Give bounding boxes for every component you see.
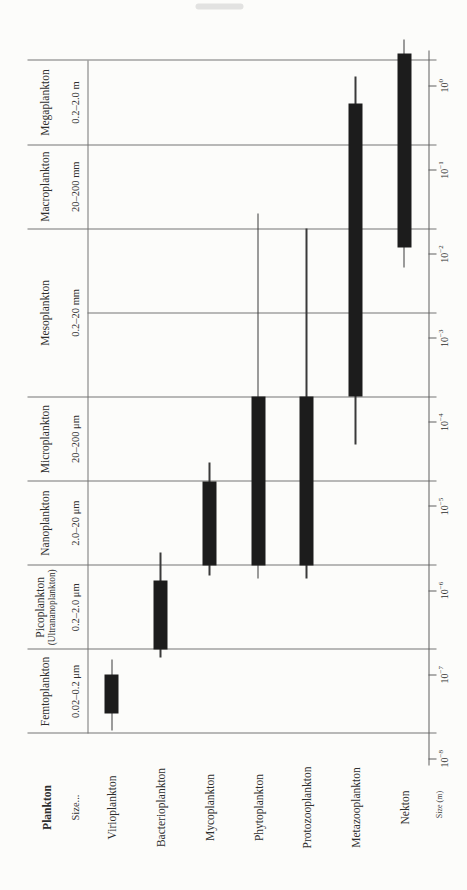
range-bar (348, 103, 362, 397)
organism-label: Protozooplankton (298, 742, 314, 872)
axis-tick-label: 10−2 (437, 234, 449, 274)
size-class-cell: Mesoplankton0.2–20 mm (28, 228, 86, 396)
organism-label: Metazooplankton (347, 742, 363, 872)
axis-tick-label: 10−6 (437, 570, 449, 610)
plot-area: Plankton Size... Size (m) Femtoplankton0… (0, 0, 467, 890)
size-header-label: Size... (67, 742, 83, 872)
size-class-range: 0.02–0.2 μm (62, 649, 86, 733)
size-class-name: Microplankton (38, 404, 51, 472)
organism-label: Bacterioplankton (152, 742, 168, 872)
axis-tick-label: 10−7 (437, 654, 449, 694)
size-class-cell: Picoplankton(Ultrananoplankton)0.2–2.0 μ… (28, 565, 86, 649)
axis-tick (428, 421, 436, 422)
range-bar (202, 481, 216, 565)
size-class-cell: Macroplankton20–200 mm (28, 144, 86, 228)
range-bar (153, 581, 167, 649)
axis-tick-exponent: −3 (436, 329, 444, 336)
class-boundary-line (27, 396, 436, 397)
organism-label: Nekton (396, 742, 412, 872)
size-class-name: Macroplankton (38, 151, 51, 221)
size-class-namebox: Macroplankton (28, 144, 62, 228)
axis-tick-exponent: −1 (436, 161, 444, 168)
figure: Plankton Size... Size (m) Femtoplankton0… (0, 0, 467, 890)
axis-tick (428, 85, 436, 86)
axis-tick (428, 337, 436, 338)
axis-tick-label: 10−4 (437, 402, 449, 442)
page: { "colors": { "bar": "#1c1c1c", "grid_li… (0, 0, 467, 890)
size-class-cell: Femtoplankton0.02–0.2 μm (28, 649, 86, 733)
size-class-cell: Microplankton20–200 μm (28, 397, 86, 481)
axis-tick-exponent: −5 (436, 497, 444, 504)
size-class-namebox: Microplankton (28, 397, 62, 481)
axis-tick (428, 505, 436, 506)
size-class-namebox: Femtoplankton (28, 649, 62, 733)
class-boundary-line (27, 228, 436, 229)
axis-tick (428, 590, 436, 591)
plankton-header-label: Plankton (38, 742, 54, 872)
range-bar (104, 674, 118, 712)
size-class-cell: Megaplankton0.2–2.0 m (28, 60, 86, 144)
size-class-name: Megaplankton (38, 69, 51, 135)
size-class-subname: (Ultrananoplankton) (46, 569, 57, 645)
class-boundary-line (27, 60, 436, 61)
organism-label: Virioplankton (103, 742, 119, 872)
scan-artifact (195, 3, 243, 9)
organism-label: Phytoplankton (250, 742, 266, 872)
axis-tick-exponent: −7 (436, 665, 444, 672)
size-class-name: Picoplankton (33, 576, 46, 637)
inner-gridline (87, 312, 436, 313)
range-bar (397, 53, 411, 247)
axis-tick (428, 674, 436, 675)
class-boundary-line (27, 648, 436, 649)
organism-label: Mycoplankton (201, 742, 217, 872)
axis-title: Size (m) (434, 776, 443, 832)
class-boundary-line (27, 144, 436, 145)
class-boundary-line (27, 733, 436, 734)
axis-tick-exponent: −2 (436, 245, 444, 252)
axis-tick-label: 10−8 (437, 738, 449, 778)
size-class-range: 0.2–2.0 μm (62, 565, 86, 649)
range-bar (251, 397, 265, 565)
axis-tick (428, 253, 436, 254)
axis-tick (428, 169, 436, 170)
class-boundary-line (27, 480, 436, 481)
axis-tick-label: 10−3 (437, 318, 449, 358)
size-class-name: Femtoplankton (38, 656, 51, 726)
size-class-range: 20–200 mm (62, 144, 86, 228)
size-class-namebox: Megaplankton (28, 60, 62, 144)
size-class-cell: Nanoplankton2.0–20 μm (28, 481, 86, 565)
axis-tick (428, 758, 436, 759)
axis-tick-label: 10−5 (437, 486, 449, 526)
range-bar (299, 397, 313, 565)
axis-tick-exponent: 0 (436, 79, 444, 83)
axis-tick-exponent: −4 (436, 413, 444, 420)
size-class-namebox: Picoplankton(Ultrananoplankton) (28, 565, 62, 649)
size-class-namebox: Mesoplankton (28, 228, 62, 396)
axis-tick-label: 10−1 (437, 149, 449, 189)
size-class-range: 20–200 μm (62, 397, 86, 481)
header-separator-line (87, 60, 88, 733)
size-class-range: 0.2–20 mm (62, 228, 86, 396)
axis-line (428, 50, 429, 765)
axis-tick-exponent: −8 (436, 750, 444, 757)
axis-tick-exponent: −6 (436, 581, 444, 588)
size-class-range: 0.2–2.0 m (62, 60, 86, 144)
size-class-name: Mesoplankton (38, 279, 51, 345)
size-class-range: 2.0–20 μm (62, 481, 86, 565)
class-boundary-line (27, 564, 436, 565)
axis-tick-label: 100 (437, 65, 449, 105)
size-class-namebox: Nanoplankton (28, 481, 62, 565)
size-class-name: Nanoplankton (38, 490, 51, 555)
